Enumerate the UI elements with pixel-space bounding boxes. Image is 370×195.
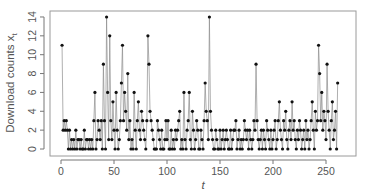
data-point bbox=[142, 129, 145, 132]
data-point bbox=[301, 138, 304, 141]
data-point bbox=[234, 119, 237, 122]
data-point bbox=[327, 110, 330, 113]
data-point bbox=[184, 147, 187, 150]
data-point bbox=[127, 138, 130, 141]
data-point bbox=[113, 147, 116, 150]
data-point bbox=[74, 129, 77, 132]
data-point bbox=[157, 129, 160, 132]
data-point bbox=[311, 100, 314, 103]
data-point bbox=[110, 138, 113, 141]
data-point bbox=[75, 147, 78, 150]
data-point bbox=[155, 147, 158, 150]
data-point bbox=[267, 138, 270, 141]
data-point bbox=[306, 129, 309, 132]
data-point bbox=[136, 119, 139, 122]
data-point bbox=[105, 15, 108, 18]
data-point bbox=[261, 147, 264, 150]
data-point bbox=[156, 119, 159, 122]
data-point bbox=[247, 147, 250, 150]
data-point bbox=[320, 91, 323, 94]
data-point bbox=[322, 110, 325, 113]
data-point bbox=[275, 147, 278, 150]
data-point bbox=[259, 138, 262, 141]
data-point bbox=[128, 119, 131, 122]
y-tick-label: 10 bbox=[26, 49, 38, 61]
data-point bbox=[165, 138, 168, 141]
data-point bbox=[214, 129, 217, 132]
data-point bbox=[328, 129, 331, 132]
data-point bbox=[312, 129, 315, 132]
data-point bbox=[84, 147, 87, 150]
data-point bbox=[223, 147, 226, 150]
y-tick-label: 14 bbox=[26, 11, 38, 23]
data-point bbox=[189, 138, 192, 141]
data-point bbox=[148, 110, 151, 113]
data-point bbox=[138, 129, 141, 132]
data-point bbox=[335, 147, 338, 150]
data-point bbox=[237, 129, 240, 132]
data-point bbox=[211, 138, 214, 141]
data-point bbox=[134, 129, 137, 132]
data-point bbox=[235, 147, 238, 150]
data-point bbox=[205, 110, 208, 113]
data-point bbox=[276, 138, 279, 141]
x-axis: 050100150200250 bbox=[58, 160, 335, 177]
data-point bbox=[152, 138, 155, 141]
data-point bbox=[90, 138, 93, 141]
data-point bbox=[103, 119, 106, 122]
data-point bbox=[106, 91, 109, 94]
data-point bbox=[284, 110, 287, 113]
data-point bbox=[139, 138, 142, 141]
data-point bbox=[245, 138, 248, 141]
data-point bbox=[60, 44, 63, 47]
data-point bbox=[278, 100, 281, 103]
data-point bbox=[266, 129, 269, 132]
data-point bbox=[206, 119, 209, 122]
data-point bbox=[201, 147, 204, 150]
time-series-chart: 02468101214 050100150200250 t Download c… bbox=[0, 0, 370, 195]
y-tick-label: 0 bbox=[26, 146, 38, 152]
data-point bbox=[182, 91, 185, 94]
data-point bbox=[292, 129, 295, 132]
data-point bbox=[314, 110, 317, 113]
data-point bbox=[116, 129, 119, 132]
y-axis-title: Download counts xt bbox=[4, 33, 19, 133]
data-point bbox=[162, 147, 165, 150]
data-point bbox=[310, 119, 313, 122]
data-point bbox=[242, 138, 245, 141]
data-point bbox=[80, 138, 83, 141]
data-point bbox=[195, 119, 198, 122]
data-point bbox=[203, 119, 206, 122]
data-point bbox=[305, 138, 308, 141]
data-point bbox=[226, 138, 229, 141]
data-point bbox=[95, 138, 98, 141]
y-tick-label: 8 bbox=[26, 70, 38, 76]
x-tick-label: 250 bbox=[317, 165, 335, 177]
x-tick-label: 100 bbox=[158, 165, 176, 177]
data-point bbox=[124, 110, 127, 113]
data-point bbox=[277, 119, 280, 122]
data-point bbox=[272, 129, 275, 132]
data-point bbox=[271, 138, 274, 141]
data-point bbox=[121, 44, 124, 47]
data-point bbox=[65, 119, 68, 122]
data-point bbox=[324, 138, 327, 141]
y-axis-title-main: Download counts x bbox=[4, 35, 16, 132]
data-point bbox=[332, 138, 335, 141]
data-point bbox=[225, 129, 228, 132]
data-point bbox=[140, 110, 143, 113]
data-point bbox=[98, 129, 101, 132]
data-point bbox=[112, 129, 115, 132]
data-point bbox=[109, 119, 112, 122]
data-point bbox=[283, 129, 286, 132]
data-point bbox=[281, 147, 284, 150]
data-point bbox=[289, 138, 292, 141]
data-point bbox=[222, 129, 225, 132]
data-point bbox=[336, 81, 339, 84]
data-point bbox=[229, 129, 232, 132]
data-point bbox=[269, 129, 272, 132]
data-point bbox=[91, 147, 94, 150]
data-point bbox=[221, 138, 224, 141]
data-point bbox=[236, 138, 239, 141]
data-point bbox=[72, 138, 75, 141]
